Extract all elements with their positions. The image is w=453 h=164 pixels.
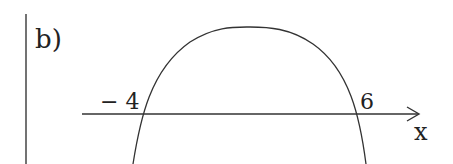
x-axis-label: x: [414, 120, 428, 144]
part-label: b): [35, 26, 62, 52]
root-label-left: − 4: [100, 91, 139, 113]
diagram-graphics: [0, 0, 453, 164]
sign-diagram: b) − 4 6 x: [0, 0, 453, 164]
parabola-curve: [133, 27, 366, 164]
root-label-right: 6: [360, 91, 374, 113]
